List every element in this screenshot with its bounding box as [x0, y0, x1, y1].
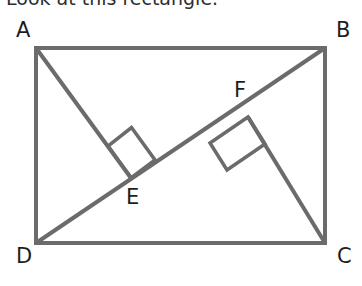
vertex-label-a: A [16, 20, 30, 41]
vertex-label-b: B [336, 20, 350, 41]
vertex-label-e: E [126, 187, 139, 208]
right-angle-marker-f [210, 117, 265, 170]
diagram-canvas: Look at this rectangle. A B C D E F [0, 0, 362, 286]
right-angle-marker-e [108, 128, 155, 179]
vertex-label-c: C [337, 246, 352, 267]
diagonal-db [36, 48, 325, 243]
vertex-label-f: F [234, 80, 246, 101]
vertex-label-d: D [16, 246, 32, 267]
rectangle-diagram-svg [0, 0, 362, 286]
